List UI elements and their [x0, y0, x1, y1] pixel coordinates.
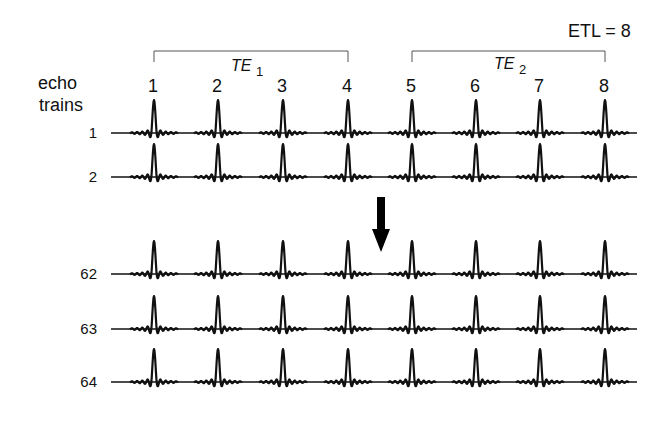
- echo-signal: [194, 241, 242, 278]
- echo-signal: [130, 296, 178, 333]
- echo-signal: [130, 144, 178, 181]
- echo-number-7: 7: [534, 76, 544, 97]
- echo-signal: [259, 349, 307, 386]
- te1-main: TE: [231, 57, 251, 74]
- echo-signal: [194, 144, 242, 181]
- echo-signal: [516, 349, 564, 386]
- echo-signal: [194, 296, 242, 333]
- echo-number-5: 5: [406, 76, 416, 97]
- te2-main: TE: [494, 55, 514, 72]
- echo-trains-label-line2: trains: [39, 95, 83, 116]
- echo-signal: [130, 349, 178, 386]
- echo-signal: [324, 100, 372, 137]
- arrow-down-icon: [377, 197, 385, 230]
- echo-signal: [581, 296, 629, 333]
- echo-signal: [324, 144, 372, 181]
- etl-label: ETL = 8: [568, 21, 631, 42]
- echo-number-6: 6: [470, 76, 480, 97]
- train-label-64: 64: [80, 373, 97, 390]
- echo-signal: [259, 241, 307, 278]
- echo-signal: [516, 296, 564, 333]
- te1-label: TE 1: [231, 57, 263, 75]
- echo-number-2: 2: [212, 76, 222, 97]
- echo-signal: [259, 296, 307, 333]
- echo-signal: [194, 349, 242, 386]
- te2-label: TE 2: [494, 55, 526, 73]
- train-label-2: 2: [89, 168, 97, 185]
- echo-signal: [388, 349, 436, 386]
- echo-signal: [324, 296, 372, 333]
- echo-signal: [516, 100, 564, 137]
- echo-signal: [452, 349, 500, 386]
- echo-signal: [452, 296, 500, 333]
- train-label-62: 62: [80, 265, 97, 282]
- te2-sub: 2: [519, 62, 526, 77]
- echo-signal: [259, 100, 307, 137]
- echo-number-8: 8: [599, 76, 609, 97]
- echo-signal: [324, 349, 372, 386]
- echo-train-diagram: [0, 0, 672, 431]
- echo-signal: [452, 100, 500, 137]
- echo-trains-label-line1: echo: [38, 73, 77, 94]
- train-label-1: 1: [89, 124, 97, 141]
- echo-signal: [388, 100, 436, 137]
- echo-signal: [452, 144, 500, 181]
- echo-signal: [452, 241, 500, 278]
- echo-signal: [194, 100, 242, 137]
- echo-signal: [388, 296, 436, 333]
- echo-signal: [388, 144, 436, 181]
- echo-signal: [581, 100, 629, 137]
- train-label-63: 63: [80, 320, 97, 337]
- echo-number-3: 3: [277, 76, 287, 97]
- echo-signal: [581, 144, 629, 181]
- echo-signal: [388, 241, 436, 278]
- arrow-down-icon-head: [372, 229, 390, 252]
- te1-sub: 1: [256, 64, 263, 79]
- echo-signal: [581, 349, 629, 386]
- echo-signal: [324, 241, 372, 278]
- echo-signal: [130, 100, 178, 137]
- echo-number-4: 4: [342, 76, 352, 97]
- echo-signal: [259, 144, 307, 181]
- echo-signal: [581, 241, 629, 278]
- echo-signal: [130, 241, 178, 278]
- echo-signal: [516, 241, 564, 278]
- echo-signal: [516, 144, 564, 181]
- echo-number-1: 1: [148, 76, 158, 97]
